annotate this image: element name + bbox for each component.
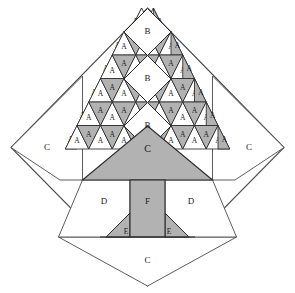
quilt-block-figure: AAAAAAAAAAAAAAAAAAAAAAAAAAAAAAAAAAAAAAAA…: [0, 0, 295, 293]
patch-f-trunk: [130, 180, 165, 237]
quilt-block-svg: AAAAAAAAAAAAAAAAAAAAAAAAAAAAAAAAAAAAAAAA…: [0, 0, 295, 293]
